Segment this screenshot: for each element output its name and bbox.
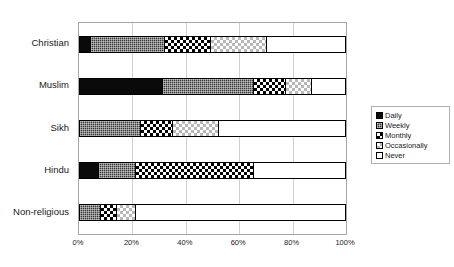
x-axis-tick-60: 60% xyxy=(231,238,246,248)
segment-monthly xyxy=(100,204,116,221)
y-axis-label-sikh: Sikh xyxy=(51,122,69,133)
bar-sikh xyxy=(79,120,346,137)
legend-swatch-daily-icon xyxy=(376,112,383,119)
x-axis-tick-labels: 0%20%40%60%80%100% xyxy=(78,238,345,252)
bar-hindu xyxy=(79,162,346,179)
segment-never xyxy=(253,162,346,179)
segment-daily xyxy=(79,36,90,53)
legend-item-daily[interactable]: Daily xyxy=(376,110,446,120)
y-axis-category-labels: ChristianMuslimSikhHinduNon-religious xyxy=(0,22,73,233)
y-axis-label-non-religious: Non-religious xyxy=(13,206,69,217)
segment-monthly xyxy=(140,120,172,137)
stacked-bar-chart: ChristianMuslimSikhHinduNon-religious 0%… xyxy=(0,0,454,267)
y-axis-label-muslim: Muslim xyxy=(39,79,69,90)
legend-item-never[interactable]: Never xyxy=(376,150,446,160)
x-axis-tick-0: 0% xyxy=(73,238,84,248)
bar-muslim xyxy=(79,78,346,95)
segment-weekly xyxy=(79,204,100,221)
segment-daily xyxy=(79,78,162,95)
segment-daily xyxy=(79,162,98,179)
clipped-header-strip xyxy=(0,0,454,8)
legend-swatch-never-icon xyxy=(376,152,383,159)
chart-legend: DailyWeeklyMonthlyOccasionallyNever xyxy=(371,106,450,164)
y-axis-label-christian: Christian xyxy=(32,37,70,48)
segment-weekly xyxy=(162,78,253,95)
segment-occasionally xyxy=(210,36,266,53)
segment-never xyxy=(266,36,346,53)
plot-area xyxy=(78,22,347,235)
legend-label-weekly: Weekly xyxy=(385,121,409,130)
segment-monthly xyxy=(164,36,209,53)
segment-never xyxy=(311,78,346,95)
legend-label-monthly: Monthly xyxy=(385,131,411,140)
x-axis-tick-80: 80% xyxy=(284,238,299,248)
bar-non-religious xyxy=(79,204,346,221)
legend-item-occasionally[interactable]: Occasionally xyxy=(376,140,446,150)
segment-monthly xyxy=(135,162,252,179)
segment-occasionally xyxy=(116,204,135,221)
y-axis-label-hindu: Hindu xyxy=(44,164,69,175)
segment-monthly xyxy=(253,78,285,95)
legend-swatch-occasionally-icon xyxy=(376,142,383,149)
segment-occasionally xyxy=(285,78,312,95)
x-axis-tick-20: 20% xyxy=(124,238,139,248)
segment-never xyxy=(218,120,346,137)
legend-swatch-monthly-icon xyxy=(376,132,383,139)
legend-item-weekly[interactable]: Weekly xyxy=(376,120,446,130)
legend-item-monthly[interactable]: Monthly xyxy=(376,130,446,140)
legend-label-occasionally: Occasionally xyxy=(385,141,428,150)
legend-label-never: Never xyxy=(385,151,405,160)
legend-label-daily: Daily xyxy=(385,111,402,120)
x-axis-tick-100: 100% xyxy=(335,238,354,248)
segment-never xyxy=(135,204,346,221)
segment-weekly xyxy=(90,36,165,53)
x-axis-tick-40: 40% xyxy=(177,238,192,248)
segment-weekly xyxy=(79,120,140,137)
segment-weekly xyxy=(98,162,135,179)
bar-christian xyxy=(79,36,346,53)
legend-swatch-weekly-icon xyxy=(376,122,383,129)
segment-occasionally xyxy=(172,120,217,137)
